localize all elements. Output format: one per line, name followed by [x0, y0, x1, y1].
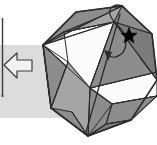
octagon-diagram-canvas	[0, 0, 157, 145]
figure-root: Octagonal folding diagram Gray shaded oc…	[0, 0, 157, 145]
rule-end-dot	[1, 95, 3, 97]
